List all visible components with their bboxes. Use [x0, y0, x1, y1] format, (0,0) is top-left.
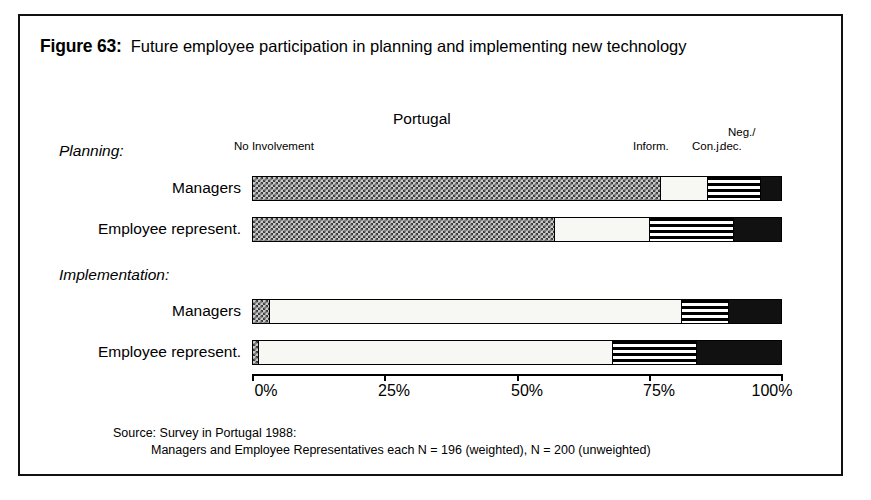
segment-inform [554, 218, 649, 241]
segment-no-involvement [253, 300, 269, 323]
segment-conj [707, 177, 760, 200]
legend-label-conj: Con.j. [692, 140, 722, 152]
x-axis-tick-label: 100% [752, 382, 793, 400]
bar-implementation-managers [252, 299, 782, 324]
segment-inform [660, 177, 708, 200]
segment-neg-dec [733, 218, 781, 241]
chart-plot-area: Portugal No Involvement Inform. Con.j. N… [20, 16, 845, 478]
x-axis-tick [781, 374, 783, 381]
legend-label-inform: Inform. [633, 140, 669, 152]
x-axis-tick [517, 374, 519, 381]
bar-planning-employee-represent [252, 217, 782, 242]
x-axis-tick [384, 374, 386, 381]
segment-conj [649, 218, 733, 241]
group-label-planning: Planning: [59, 142, 124, 160]
x-axis-tick [252, 374, 254, 381]
segment-no-involvement [253, 218, 554, 241]
row-label-planning-employee-represent: Employee represent. [59, 220, 241, 238]
group-label-implementation: Implementation: [59, 266, 169, 284]
legend-label-neg-line1: Neg./ [728, 126, 756, 138]
segment-conj [681, 300, 729, 323]
legend-label-no-involvement: No Involvement [234, 140, 314, 152]
x-axis-tick-label: 25% [378, 382, 410, 400]
source-line-1: Source: Survey in Portugal 1988: [113, 425, 651, 442]
segment-no-involvement [253, 177, 660, 200]
source-line-2: Managers and Employee Representatives ea… [151, 442, 651, 459]
x-axis-tick-label: 0% [254, 382, 277, 400]
legend-label-neg-line2: dec. [720, 140, 742, 152]
segment-conj [612, 341, 696, 364]
segment-neg-dec [696, 341, 780, 364]
row-label-implementation-employee-represent: Employee represent. [59, 343, 241, 361]
segment-neg-dec [760, 177, 781, 200]
segment-neg-dec [728, 300, 781, 323]
figure-frame: Figure 63: Future employee participation… [18, 14, 843, 476]
segment-inform [269, 300, 681, 323]
chart-title: Portugal [393, 110, 451, 128]
x-axis-tick-label: 75% [643, 382, 675, 400]
row-label-implementation-managers: Managers [59, 302, 241, 320]
bar-implementation-employee-represent [252, 340, 782, 365]
segment-inform [258, 341, 612, 364]
x-axis-tick [649, 374, 651, 381]
bar-planning-managers [252, 176, 782, 201]
row-label-planning-managers: Managers [59, 179, 241, 197]
source-note: Source: Survey in Portugal 1988: Manager… [113, 425, 651, 459]
x-axis-tick-label: 50% [511, 382, 543, 400]
